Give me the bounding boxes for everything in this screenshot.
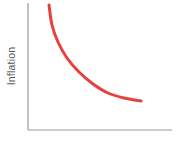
y-axis-label-text: Inflation <box>5 47 17 86</box>
chart: Inflation <box>0 0 177 142</box>
chart-plot <box>0 0 177 142</box>
y-axis-label: Inflation <box>4 41 18 91</box>
inflation-curve <box>49 5 141 101</box>
